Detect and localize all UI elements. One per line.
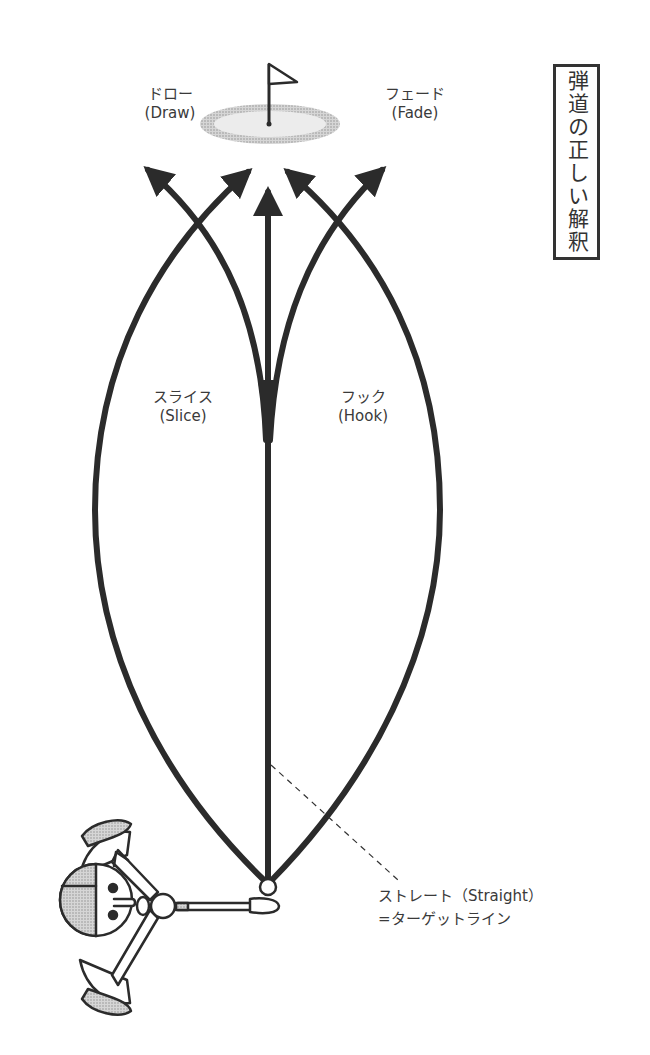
title-box: 弾道の正しい解釈 — [553, 64, 600, 260]
trajectory-junction — [258, 380, 278, 450]
hook-label-en: (Hook) — [318, 407, 408, 426]
fade-label-jp: フェード — [370, 85, 460, 104]
straight-label: ストレート（Straight） =ターゲットライン — [378, 885, 543, 931]
draw-label-en: (Draw) — [130, 104, 210, 123]
straight-label-jp: ストレート（Straight） — [378, 885, 543, 908]
draw-label-jp: ドロー — [130, 85, 210, 104]
slice-label: スライス (Slice) — [138, 388, 228, 426]
draw-label: ドロー (Draw) — [130, 85, 210, 123]
golf-ball — [260, 879, 276, 895]
hook-label: フック (Hook) — [318, 388, 408, 426]
slice-label-en: (Slice) — [138, 407, 228, 426]
fade-label: フェード (Fade) — [370, 85, 460, 123]
golfer-icon — [60, 820, 279, 1014]
fade-label-en: (Fade) — [370, 104, 460, 123]
hook-trajectory — [270, 172, 440, 882]
diagram-title: 弾道の正しい解釈 — [562, 70, 592, 254]
slice-trajectory — [95, 172, 266, 882]
slice-label-jp: スライス — [138, 388, 228, 407]
hook-label-jp: フック — [318, 388, 408, 407]
straight-label-sub: =ターゲットライン — [378, 908, 543, 931]
